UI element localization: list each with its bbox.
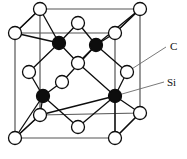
atom-silicon <box>109 27 122 40</box>
atom-carbon <box>53 37 66 50</box>
bond <box>78 63 115 96</box>
atom-silicon <box>23 66 36 79</box>
atom-carbon <box>109 90 122 103</box>
atom-silicon <box>56 76 69 89</box>
atom-silicon <box>34 109 47 122</box>
atom-silicon <box>134 107 147 120</box>
atom-carbon <box>90 39 103 52</box>
atom-silicon <box>72 57 85 70</box>
label-carbon: C <box>170 40 177 52</box>
atom-silicon <box>72 17 85 30</box>
atom-silicon <box>9 132 22 145</box>
atom-silicon <box>72 121 85 134</box>
atom-silicon <box>9 27 22 40</box>
atom-silicon <box>34 3 47 16</box>
cell-edge-back-face <box>40 9 140 115</box>
silicon-atoms <box>9 3 147 145</box>
label-silicon: Si <box>167 76 176 88</box>
atom-carbon <box>37 90 50 103</box>
sic-unit-cell-diagram: C Si <box>0 0 187 159</box>
atom-silicon <box>121 66 134 79</box>
atom-silicon <box>109 132 122 145</box>
atom-silicon <box>134 3 147 16</box>
crystal-structure-figure: C Si <box>0 0 187 159</box>
